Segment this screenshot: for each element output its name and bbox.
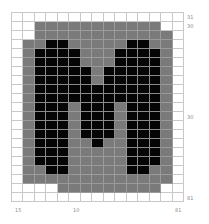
grid-cell[interactable] xyxy=(23,67,34,76)
grid-cell[interactable] xyxy=(115,49,126,58)
grid-cell[interactable] xyxy=(138,49,149,58)
grid-cell[interactable] xyxy=(104,139,115,148)
grid-cell[interactable] xyxy=(104,121,115,130)
grid-cell[interactable] xyxy=(92,148,103,157)
grid-cell[interactable] xyxy=(81,13,92,22)
grid-cell[interactable] xyxy=(12,40,23,49)
grid-cell[interactable] xyxy=(104,148,115,157)
grid-cell[interactable] xyxy=(115,193,126,202)
grid-cell[interactable] xyxy=(115,148,126,157)
grid-cell[interactable] xyxy=(23,130,34,139)
grid-cell[interactable] xyxy=(81,148,92,157)
grid-cell[interactable] xyxy=(69,121,80,130)
grid-cell[interactable] xyxy=(58,184,69,193)
grid-cell[interactable] xyxy=(69,67,80,76)
grid-cell[interactable] xyxy=(23,58,34,67)
grid-cell[interactable] xyxy=(92,157,103,166)
grid-cell[interactable] xyxy=(12,148,23,157)
pixel-grid[interactable] xyxy=(11,12,184,202)
grid-cell[interactable] xyxy=(115,121,126,130)
grid-cell[interactable] xyxy=(150,13,161,22)
grid-cell[interactable] xyxy=(138,193,149,202)
grid-cell[interactable] xyxy=(127,58,138,67)
grid-cell[interactable] xyxy=(46,67,57,76)
grid-cell[interactable] xyxy=(104,13,115,22)
grid-cell[interactable] xyxy=(58,166,69,175)
grid-cell[interactable] xyxy=(173,103,184,112)
grid-cell[interactable] xyxy=(115,31,126,40)
grid-cell[interactable] xyxy=(58,121,69,130)
grid-cell[interactable] xyxy=(92,49,103,58)
grid-cell[interactable] xyxy=(127,130,138,139)
grid-cell[interactable] xyxy=(138,40,149,49)
grid-cell[interactable] xyxy=(12,31,23,40)
grid-cell[interactable] xyxy=(173,157,184,166)
grid-cell[interactable] xyxy=(23,121,34,130)
grid-cell[interactable] xyxy=(138,13,149,22)
grid-cell[interactable] xyxy=(161,22,172,31)
grid-cell[interactable] xyxy=(69,85,80,94)
grid-cell[interactable] xyxy=(69,175,80,184)
grid-cell[interactable] xyxy=(173,94,184,103)
grid-cell[interactable] xyxy=(69,58,80,67)
grid-cell[interactable] xyxy=(46,85,57,94)
grid-cell[interactable] xyxy=(81,193,92,202)
grid-cell[interactable] xyxy=(58,13,69,22)
grid-cell[interactable] xyxy=(81,112,92,121)
grid-cell[interactable] xyxy=(23,139,34,148)
grid-cell[interactable] xyxy=(161,166,172,175)
grid-cell[interactable] xyxy=(35,22,46,31)
grid-cell[interactable] xyxy=(150,31,161,40)
grid-cell[interactable] xyxy=(173,58,184,67)
grid-cell[interactable] xyxy=(46,193,57,202)
grid-cell[interactable] xyxy=(12,85,23,94)
grid-cell[interactable] xyxy=(173,166,184,175)
grid-cell[interactable] xyxy=(58,31,69,40)
grid-cell[interactable] xyxy=(46,31,57,40)
grid-cell[interactable] xyxy=(138,22,149,31)
grid-cell[interactable] xyxy=(12,193,23,202)
grid-cell[interactable] xyxy=(58,49,69,58)
grid-cell[interactable] xyxy=(173,139,184,148)
grid-cell[interactable] xyxy=(69,112,80,121)
grid-cell[interactable] xyxy=(35,13,46,22)
grid-cell[interactable] xyxy=(69,139,80,148)
grid-cell[interactable] xyxy=(173,13,184,22)
grid-cell[interactable] xyxy=(115,157,126,166)
grid-cell[interactable] xyxy=(69,31,80,40)
grid-cell[interactable] xyxy=(23,22,34,31)
grid-cell[interactable] xyxy=(104,40,115,49)
grid-cell[interactable] xyxy=(115,130,126,139)
grid-cell[interactable] xyxy=(161,184,172,193)
grid-cell[interactable] xyxy=(58,22,69,31)
grid-cell[interactable] xyxy=(127,94,138,103)
grid-cell[interactable] xyxy=(161,103,172,112)
grid-cell[interactable] xyxy=(69,94,80,103)
grid-cell[interactable] xyxy=(173,22,184,31)
grid-cell[interactable] xyxy=(35,148,46,157)
grid-cell[interactable] xyxy=(46,130,57,139)
grid-cell[interactable] xyxy=(35,49,46,58)
grid-cell[interactable] xyxy=(35,112,46,121)
grid-cell[interactable] xyxy=(81,58,92,67)
grid-cell[interactable] xyxy=(12,49,23,58)
grid-cell[interactable] xyxy=(23,166,34,175)
grid-cell[interactable] xyxy=(127,121,138,130)
grid-cell[interactable] xyxy=(23,112,34,121)
grid-cell[interactable] xyxy=(127,112,138,121)
grid-cell[interactable] xyxy=(12,22,23,31)
grid-cell[interactable] xyxy=(69,13,80,22)
grid-cell[interactable] xyxy=(81,49,92,58)
grid-cell[interactable] xyxy=(127,85,138,94)
grid-cell[interactable] xyxy=(150,94,161,103)
grid-cell[interactable] xyxy=(92,166,103,175)
grid-cell[interactable] xyxy=(23,103,34,112)
grid-cell[interactable] xyxy=(23,40,34,49)
grid-cell[interactable] xyxy=(92,139,103,148)
grid-cell[interactable] xyxy=(23,94,34,103)
grid-cell[interactable] xyxy=(161,85,172,94)
grid-cell[interactable] xyxy=(161,148,172,157)
grid-cell[interactable] xyxy=(58,139,69,148)
grid-cell[interactable] xyxy=(138,175,149,184)
grid-cell[interactable] xyxy=(92,58,103,67)
